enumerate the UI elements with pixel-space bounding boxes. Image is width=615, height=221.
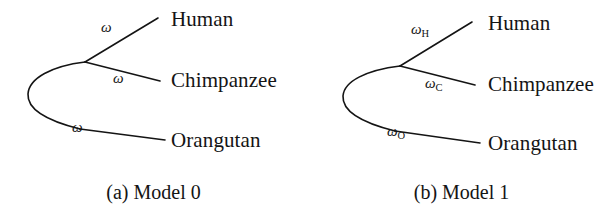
omega-label-chimpanzee: ωC <box>425 76 443 93</box>
omega-label-chimpanzee: ω <box>113 71 124 88</box>
root-branch <box>343 66 400 131</box>
taxon-label-human: Human <box>171 9 233 30</box>
taxon-label-chimpanzee: Chimpanzee <box>171 70 277 91</box>
taxon-label-human: Human <box>488 13 550 34</box>
panel-caption-model-0: (a) Model 0 <box>0 182 307 202</box>
omega-label-orangutan: ωO <box>387 124 405 141</box>
panel-model-0: ω ω ω Human Chimpanzee Orangutan (a) Mod… <box>0 0 307 221</box>
omega-label-human: ωH <box>411 22 429 39</box>
taxon-label-orangutan: Orangutan <box>488 133 578 154</box>
taxon-label-chimpanzee: Chimpanzee <box>488 74 594 95</box>
omega-label-human: ω <box>101 20 112 37</box>
orangutan-branch-line <box>395 131 480 143</box>
phylogenetic-tree-figure: ω ω ω Human Chimpanzee Orangutan (a) Mod… <box>0 0 615 221</box>
panel-model-1: ωH ωC ωO Human Chimpanzee Orangutan (b) … <box>308 0 615 221</box>
human-branch-line <box>85 18 158 62</box>
panel-caption-model-1: (b) Model 1 <box>308 182 615 202</box>
taxon-label-orangutan: Orangutan <box>171 130 261 151</box>
omega-label-orangutan: ω <box>72 120 83 137</box>
orangutan-branch-line <box>80 129 165 140</box>
